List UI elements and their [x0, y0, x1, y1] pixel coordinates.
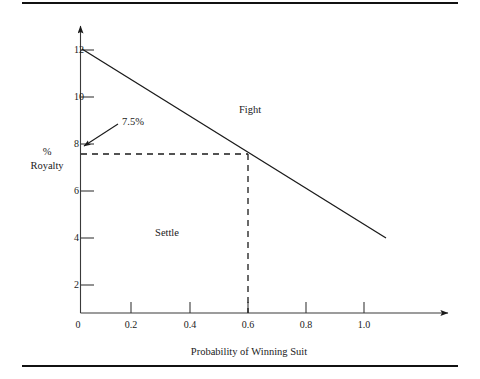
boundary-line: [82, 49, 386, 238]
region-label-settle: Settle: [155, 227, 179, 238]
y-axis-title-word: Royalty: [30, 160, 63, 171]
callout-arrow: [84, 124, 118, 146]
chart-canvas: [0, 0, 480, 379]
y-tick-label-10: 10: [74, 92, 84, 103]
y-axis-ticks: [81, 50, 95, 285]
figure-container: 12 10 8 6 4 2 0 0.2 0.4 0.6 0.8 1.0 % Ro…: [0, 0, 480, 379]
y-tick-label-12: 12: [74, 45, 84, 56]
x-tick-label-1-0: 1.0: [358, 320, 371, 331]
y-tick-label-8: 8: [74, 139, 79, 150]
y-tick-label-6: 6: [74, 186, 79, 197]
x-tick-label-0-8: 0.8: [300, 320, 313, 331]
callout-label-7-5-percent: 7.5%: [122, 116, 144, 127]
x-tick-label-0-6: 0.6: [242, 320, 255, 331]
x-tick-label-0-2: 0.2: [125, 320, 138, 331]
origin-label: 0: [76, 320, 81, 331]
region-label-fight: Fight: [239, 104, 261, 115]
y-axis-title-symbol: %: [43, 146, 52, 157]
x-tick-label-0-4: 0.4: [184, 320, 197, 331]
x-axis-title: Probability of Winning Suit: [191, 346, 307, 357]
y-tick-label-2: 2: [74, 280, 79, 291]
y-tick-label-4: 4: [74, 233, 79, 244]
